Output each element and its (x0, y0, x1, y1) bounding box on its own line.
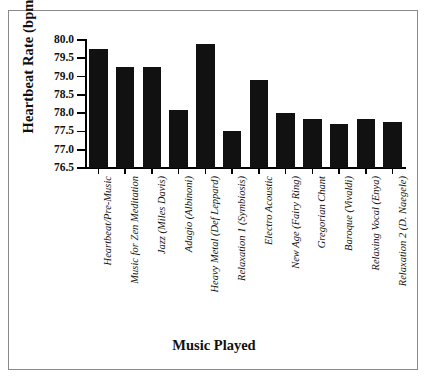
bar (116, 67, 135, 168)
bar (169, 110, 188, 169)
x-axis-tick-label: Heavy Metal (Def Leppard) (209, 176, 220, 293)
x-axis-tick (258, 168, 260, 174)
x-axis-tick-label: Electro Acoustic (263, 176, 274, 245)
bar (196, 44, 215, 168)
x-axis-tick (285, 168, 287, 174)
y-axis-tick-label-wrap: 78.0 (36, 107, 74, 119)
x-axis-tick (151, 168, 153, 174)
bar (330, 124, 349, 168)
y-axis-tick-label: 77.5 (40, 125, 74, 137)
bar-series (85, 40, 406, 168)
x-axis-tick (205, 168, 207, 174)
y-axis-tick-label-wrap: 80.0 (36, 34, 74, 46)
x-axis-tick-label: New Age (Fairy Ring) (290, 176, 301, 269)
bar (143, 67, 162, 168)
x-axis-tick-label: Baroque (Vivaldi) (343, 176, 354, 251)
x-axis-tick (231, 168, 233, 174)
x-axis-tick-label: Relaxing Vocal (Enya) (370, 176, 381, 270)
x-axis-tick (124, 168, 126, 174)
x-axis-tick (365, 168, 367, 174)
bar (303, 119, 322, 168)
x-axis-tick (338, 168, 340, 174)
x-axis-tick (178, 168, 180, 174)
bar (383, 122, 402, 168)
x-axis-tick-label: Adagio (Albinoni) (183, 176, 194, 252)
y-axis-tick-label: 79.5 (40, 52, 74, 64)
y-axis-tick-label: 76.5 (40, 162, 74, 174)
x-axis-tick-label: Relaxation 1 (Symbiosis) (236, 176, 247, 281)
y-axis-tick-label-wrap: 79.0 (36, 71, 74, 83)
bar (250, 80, 269, 168)
y-axis-tick-label: 78.5 (40, 89, 74, 101)
bar (223, 131, 242, 168)
x-axis-tick-label: Relaxation 2 (D. Naegele) (397, 176, 408, 286)
y-axis-tick-label-wrap: 79.5 (36, 52, 74, 64)
y-axis-tick-label-wrap: 78.5 (36, 89, 74, 101)
x-axis-tick-label: Heartbeat/Pre-Music (102, 176, 113, 265)
x-axis-tick (392, 168, 394, 174)
bar (89, 49, 108, 168)
y-axis-tick-label: 79.0 (40, 71, 74, 83)
y-axis-tick-label-wrap: 76.5 (36, 162, 74, 174)
x-axis-tick (312, 168, 314, 174)
x-axis-tick (98, 168, 100, 174)
y-axis-tick-label: 78.0 (40, 107, 74, 119)
y-axis-tick-label-wrap: 77.5 (36, 125, 74, 137)
y-axis-tick-label: 80.0 (40, 34, 74, 46)
chart-figure: Heartbeat Rate (bpm) 80.079.579.078.578.… (0, 0, 428, 380)
y-axis-tick-label: 77.0 (40, 144, 74, 156)
x-axis-tick-label: Jazz (Miles Davis) (156, 176, 167, 254)
x-axis-tick-label: Gregorian Chant (316, 176, 327, 248)
bar (357, 119, 376, 168)
bar (276, 113, 295, 168)
x-axis-title: Music Played (0, 337, 428, 354)
x-axis-tick-label: Music for Zen Meditation (129, 176, 140, 284)
y-axis-tick-label-wrap: 77.0 (36, 144, 74, 156)
